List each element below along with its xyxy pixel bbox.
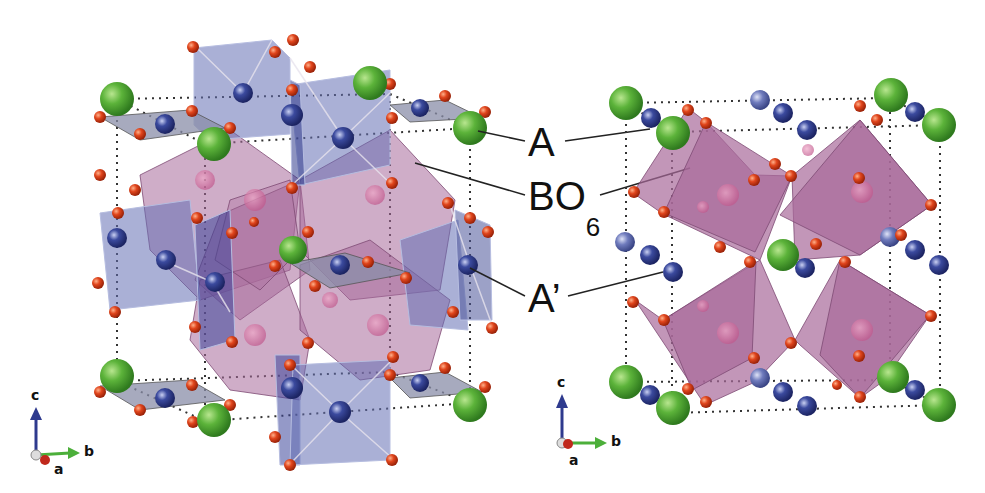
label-a-prime-site: A’ xyxy=(528,278,561,318)
axis-label-c-right: c xyxy=(557,374,565,390)
axis-label-b-right: b xyxy=(611,433,621,449)
a-site-atoms-right xyxy=(609,78,956,425)
axis-label-a-left: a xyxy=(54,461,63,477)
label-bo6: BO6 xyxy=(528,176,600,216)
axis-label-a-right: a xyxy=(569,452,578,468)
axis-triad-left xyxy=(30,407,80,465)
axis-triad-right xyxy=(556,394,607,449)
axis-label-c-left: c xyxy=(31,387,39,403)
label-bo6-main: BO xyxy=(528,174,586,218)
label-a-site: A xyxy=(528,122,555,162)
left-structure-panel xyxy=(92,34,498,471)
axis-label-b-left: b xyxy=(84,443,94,459)
label-bo6-subscript: 6 xyxy=(586,212,600,242)
crystal-structure-figure xyxy=(0,0,985,493)
right-structure-panel xyxy=(609,78,956,425)
